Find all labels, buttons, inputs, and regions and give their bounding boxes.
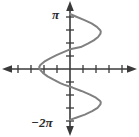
plot-svg	[0, 0, 139, 137]
y-axis-top-label: π	[52, 8, 59, 21]
y-axis-bottom-label: −2π	[31, 116, 52, 129]
math-graph-figure: π −2π	[0, 0, 139, 137]
y-axis-up-arrow-icon	[66, 1, 74, 11]
x-axis-left-arrow-icon	[2, 65, 12, 73]
y-axis-down-arrow-icon	[66, 126, 74, 136]
x-axis-right-arrow-icon	[127, 65, 137, 73]
